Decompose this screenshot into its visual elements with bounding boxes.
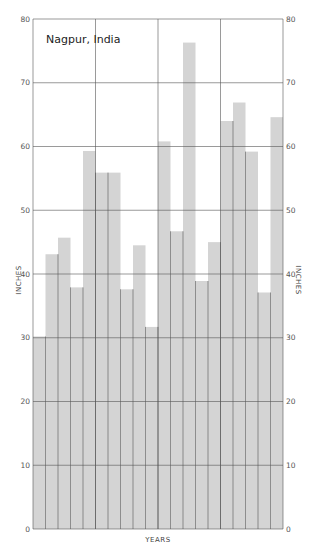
bar <box>83 151 96 529</box>
bar <box>196 281 209 529</box>
y-tick-label-right: 70 <box>286 78 296 87</box>
y-tick-label-left: 80 <box>20 15 30 24</box>
bar <box>246 152 259 529</box>
y-tick-label-left: 60 <box>20 142 30 151</box>
bar <box>71 287 84 529</box>
y-tick-label-right: 60 <box>286 142 296 151</box>
bar <box>171 231 184 529</box>
y-tick-label-left: 50 <box>20 206 30 215</box>
bar <box>33 336 46 529</box>
bar <box>146 327 159 529</box>
y-tick-label-left: 10 <box>20 461 30 470</box>
y-tick-label-right: 10 <box>286 461 296 470</box>
bar <box>96 173 109 529</box>
bar <box>183 43 196 529</box>
y-tick-label-right: 50 <box>286 206 296 215</box>
bar <box>108 173 121 529</box>
bar <box>208 242 221 529</box>
y-tick-label-right: 30 <box>286 333 296 342</box>
chart-title: Nagpur, India <box>46 33 120 46</box>
y-tick-label-left: 30 <box>20 333 30 342</box>
y-axis-label-left: INCHES <box>15 265 23 294</box>
bar <box>221 121 234 529</box>
bar <box>46 254 59 529</box>
bar <box>58 238 71 529</box>
y-axis-label-right: INCHES <box>294 265 302 294</box>
grid-group <box>33 19 283 529</box>
bar <box>158 141 171 529</box>
rainfall-bar-chart: 01020304050607080 01020304050607080 Nagp… <box>0 0 314 555</box>
y-tick-label-left: 20 <box>20 397 30 406</box>
y-tick-label-left: 70 <box>20 78 30 87</box>
y-tick-label-right: 20 <box>286 397 296 406</box>
bar <box>271 117 284 529</box>
y-tick-label-left: 0 <box>25 525 30 534</box>
bar <box>133 245 146 529</box>
y-tick-label-right: 0 <box>286 525 291 534</box>
bar <box>121 289 134 529</box>
bar <box>258 292 271 529</box>
x-axis-label: YEARS <box>144 536 170 544</box>
y-tick-label-right: 80 <box>286 15 296 24</box>
